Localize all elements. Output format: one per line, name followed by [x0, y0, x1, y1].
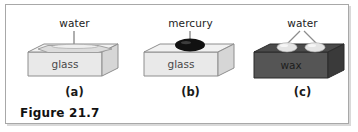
leader-line-water-c-right: [304, 31, 317, 44]
diagram-panel-a: water glass (a): [18, 13, 131, 105]
liquid-water-bead-c-left: [277, 43, 297, 52]
liquid-water-bead-c-right: [305, 43, 325, 52]
liquid-mercury-highlight-b: [181, 41, 191, 44]
figure-caption: Figure 21.7: [20, 106, 100, 120]
diagram-panel-c: water wax (c): [246, 13, 358, 105]
liquid-water-bead-highlight-c-right: [308, 44, 316, 47]
block-label-glass-a: glass: [52, 58, 79, 70]
panel-caption-b: (b): [134, 85, 247, 99]
liquid-water-bead-highlight-c-left: [280, 44, 288, 47]
block-label-glass-b: glass: [168, 58, 195, 70]
block-label-wax-c: wax: [280, 59, 301, 71]
figure-container: water glass (a) mercury: [0, 0, 358, 132]
diagram-panel-b: mercury glass (b): [134, 13, 247, 105]
figure-frame: water glass (a) mercury: [5, 4, 349, 124]
panel-caption-a: (a): [18, 85, 131, 99]
panel-caption-c: (c): [246, 85, 358, 99]
liquid-mercury-bead-b: [175, 39, 205, 52]
liquid-water-film-highlight-a: [52, 44, 98, 48]
leader-line-water-c-left: [287, 31, 300, 44]
